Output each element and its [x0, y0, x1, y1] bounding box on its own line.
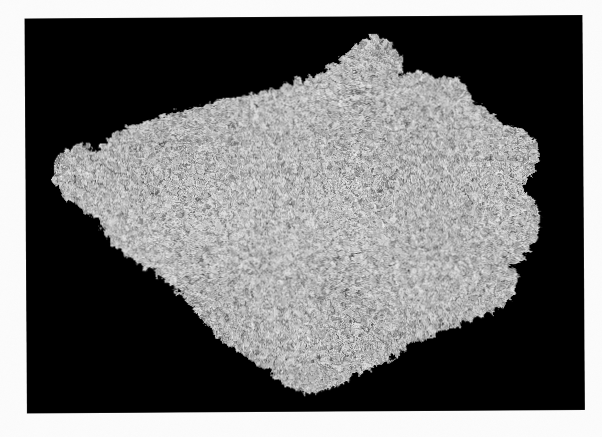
photograph-page: Monochrome photograph of an irregular sl…	[0, 0, 602, 437]
specimen-rendering	[25, 16, 584, 413]
photograph-black-field	[25, 16, 584, 413]
